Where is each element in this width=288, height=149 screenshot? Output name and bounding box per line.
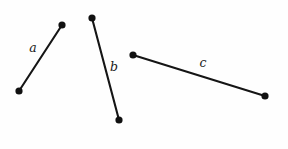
segment-a-label: a [29,40,36,55]
segment-b-group: b [88,14,122,123]
line-segments-figure: a b c [0,0,288,149]
diagram-canvas: a b c [0,0,288,149]
segment-c-group: c [129,51,268,99]
segment-a-endpoint-end [58,21,65,28]
segment-b-endpoint-end [115,116,122,123]
segment-a-endpoint-start [15,87,22,94]
segment-c-endpoint-end [261,92,268,99]
segment-b-endpoint-start [88,14,95,21]
segment-b-label: b [110,59,118,74]
segment-c-endpoint-start [129,51,136,58]
segment-a-line [19,25,62,91]
segment-c-label: c [199,55,206,70]
segment-a-group: a [15,21,65,94]
